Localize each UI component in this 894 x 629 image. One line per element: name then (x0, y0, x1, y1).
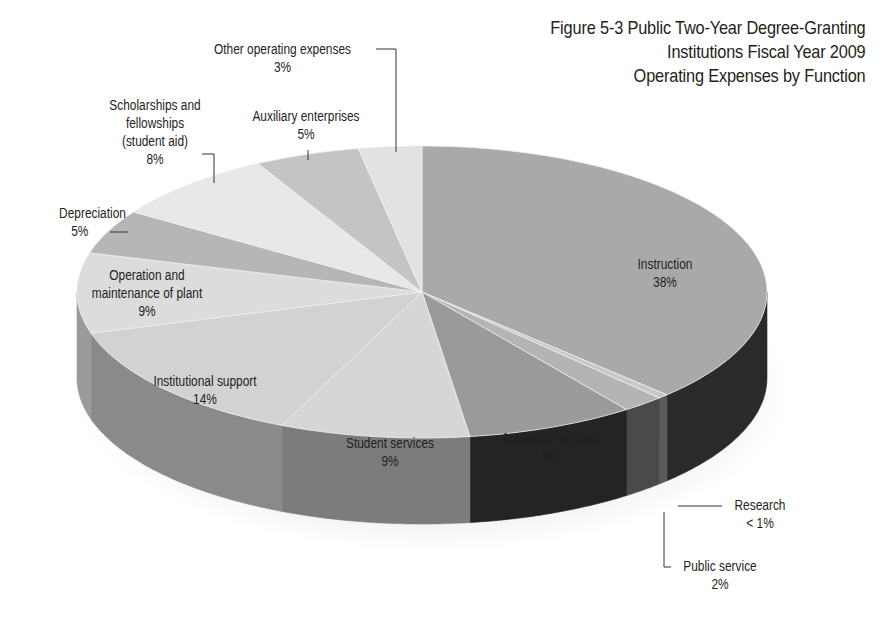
label-institutional-support: Institutional support 14% (133, 372, 278, 408)
label-name: Institutional support (133, 372, 278, 390)
label-pct: 5% (238, 125, 374, 143)
label-research: Research < 1% (726, 496, 794, 532)
leader-public-service (664, 512, 671, 567)
label-pct: 9% (331, 452, 450, 470)
chart-title: Figure 5-3 Public Two-Year Degree-Granti… (551, 16, 866, 88)
label-other: Other operating expenses 3% (204, 40, 361, 76)
label-pct: < 1% (726, 514, 794, 532)
label-pct: 8% (104, 150, 206, 168)
label-name: Academic Support (491, 429, 610, 447)
label-academic-support: Academic Support 8% (491, 429, 610, 465)
label-name: Auxiliary enterprises (238, 107, 374, 125)
label-name-3: (student aid) (104, 132, 206, 150)
label-pct: 38% (618, 273, 712, 291)
label-name-2: fellowships (104, 114, 206, 132)
label-name: Research (726, 496, 794, 514)
pie-side-1 (659, 395, 667, 484)
label-name-1: Scholarships and (104, 96, 206, 114)
label-pct: 5% (22, 222, 137, 240)
label-auxiliary: Auxiliary enterprises 5% (238, 107, 374, 143)
title-line-2: Institutions Fiscal Year 2009 (551, 40, 866, 64)
label-name-1: Operation and (83, 266, 211, 284)
title-line-3: Operating Expenses by Function (551, 64, 866, 88)
label-name: Student services (331, 434, 450, 452)
label-public-service: Public service 2% (673, 557, 767, 593)
label-instruction: Instruction 38% (618, 255, 712, 291)
label-pct: 9% (83, 302, 211, 320)
label-name: Depreciation (48, 204, 137, 222)
label-student-services: Student services 9% (331, 434, 450, 470)
label-pct: 2% (673, 575, 767, 593)
leader-other (376, 49, 396, 152)
label-name: Public service (673, 557, 767, 575)
label-depreciation: Depreciation 5% (48, 204, 137, 240)
label-name: Instruction (618, 255, 712, 273)
label-operation-maintenance: Operation and maintenance of plant 9% (83, 266, 211, 320)
title-line-1: Figure 5-3 Public Two-Year Degree-Granti… (551, 16, 866, 40)
label-pct: 8% (491, 447, 610, 465)
label-pct: 3% (204, 58, 361, 76)
label-pct: 14% (133, 390, 278, 408)
label-name: Other operating expenses (204, 40, 361, 58)
label-name-2: maintenance of plant (83, 284, 211, 302)
label-scholarships: Scholarships and fellowships (student ai… (104, 96, 206, 168)
pie-side-2 (627, 398, 660, 496)
